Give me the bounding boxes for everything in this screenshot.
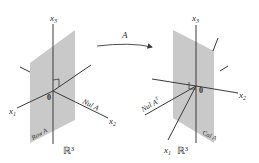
origin-label: 0 bbox=[47, 93, 51, 102]
x1-axis-back bbox=[20, 67, 30, 72]
origin-label: 0 bbox=[199, 86, 203, 95]
x2-label: x2 bbox=[108, 116, 116, 127]
x3-label: x3 bbox=[49, 13, 57, 24]
mapping-arrow: A bbox=[97, 30, 152, 47]
x2-label: x2 bbox=[238, 90, 246, 101]
x1-axis-back bbox=[220, 66, 228, 71]
arrow-path bbox=[97, 44, 152, 47]
right-space: x3 x2 x1 0 Nul AT Col A ℝ³ bbox=[139, 13, 246, 156]
diagram-svg: x3 x1 x2 0 Nul A Row A ℝ³ A bbox=[0, 0, 259, 163]
space-label: ℝ³ bbox=[177, 145, 188, 156]
x1-label: x1 bbox=[8, 106, 16, 117]
x2-axis-back bbox=[213, 38, 218, 51]
column-space-plane bbox=[173, 30, 214, 143]
x3-label: x3 bbox=[191, 13, 199, 24]
left-space: x3 x1 x2 0 Nul A Row A ℝ³ bbox=[8, 13, 116, 156]
null-space-label: Nul A bbox=[80, 96, 101, 112]
x1-label: x1 bbox=[163, 145, 171, 156]
mapping-label: A bbox=[121, 30, 128, 40]
space-label: ℝ³ bbox=[63, 145, 74, 156]
fundamental-subspaces-diagram: x3 x1 x2 0 Nul A Row A ℝ³ A bbox=[0, 0, 259, 163]
